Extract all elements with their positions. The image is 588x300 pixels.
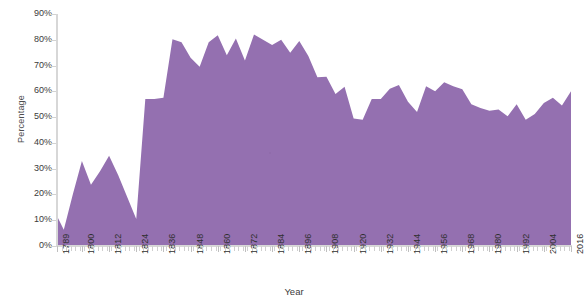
x-tick-label: 1872: [249, 234, 259, 254]
x-tick-mark-major: [462, 246, 463, 252]
x-tick-mark-major: [82, 246, 83, 252]
x-tick-label: 1836: [167, 234, 177, 254]
x-tick-label: 1812: [113, 234, 123, 254]
x-tick-mark: [401, 246, 402, 251]
x-tick-mark-major: [299, 246, 300, 252]
y-axis-line: [56, 14, 58, 246]
x-tick-mark: [197, 246, 198, 251]
x-tick-mark-major: [517, 246, 518, 252]
x-tick-mark: [320, 246, 321, 251]
x-tick-mark-major: [326, 246, 327, 252]
x-tick-label: 1920: [358, 234, 368, 254]
x-tick-mark: [306, 246, 307, 251]
y-tick-label: 30%: [6, 164, 52, 173]
y-tick-label: 0%: [6, 241, 52, 250]
x-tick-mark-major: [435, 246, 436, 252]
x-tick-mark: [356, 246, 357, 251]
x-tick-mark: [71, 246, 72, 251]
x-tick-mark-major: [136, 246, 137, 252]
y-tick-label: 20%: [6, 189, 52, 198]
x-axis-title: Year: [0, 286, 588, 297]
x-tick-mark: [528, 246, 529, 251]
x-tick-label: 1860: [222, 234, 232, 254]
x-tick-mark-major: [544, 246, 545, 252]
x-tick-mark-major: [272, 246, 273, 252]
x-tick-label: 2004: [548, 234, 558, 254]
y-tick-label: 60%: [6, 86, 52, 95]
x-tick-mark: [383, 246, 384, 251]
x-tick-mark: [483, 246, 484, 251]
x-tick-label: 1992: [521, 234, 531, 254]
x-tick-mark: [338, 246, 339, 251]
x-tick-mark: [261, 246, 262, 251]
x-tick-mark: [324, 246, 325, 251]
x-tick-mark: [89, 246, 90, 251]
x-tick-mark: [360, 246, 361, 251]
y-tick-label: 80%: [6, 35, 52, 44]
x-tick-mark: [315, 246, 316, 251]
x-tick-mark: [333, 246, 334, 251]
y-axis-ticks: 0%10%20%30%40%50%60%70%80%90%: [4, 0, 52, 300]
x-tick-mark: [265, 246, 266, 251]
x-tick-label: 1824: [140, 234, 150, 254]
x-tick-mark: [283, 246, 284, 251]
x-tick-mark: [206, 246, 207, 251]
x-tick-label: 2016: [575, 234, 585, 254]
x-tick-mark: [374, 246, 375, 251]
x-tick-mark: [188, 246, 189, 251]
y-tick-mark: [51, 40, 56, 41]
x-tick-mark: [514, 246, 515, 251]
x-tick-mark: [93, 246, 94, 251]
x-tick-mark: [533, 246, 534, 251]
x-tick-mark: [143, 246, 144, 251]
x-tick-mark: [442, 246, 443, 251]
x-tick-mark: [311, 246, 312, 251]
x-tick-mark: [193, 246, 194, 251]
x-tick-mark: [184, 246, 185, 251]
x-tick-label: 1932: [385, 234, 395, 254]
x-tick-mark: [234, 246, 235, 251]
scan-speck: [269, 152, 271, 154]
x-tick-mark-major: [245, 246, 246, 252]
series-area-path: [57, 14, 571, 246]
x-tick-mark: [297, 246, 298, 251]
x-tick-mark: [351, 246, 352, 251]
x-tick-mark: [102, 246, 103, 251]
x-tick-mark: [225, 246, 226, 251]
x-tick-mark: [460, 246, 461, 251]
x-tick-mark: [292, 246, 293, 251]
x-tick-mark: [410, 246, 411, 251]
x-tick-mark: [270, 246, 271, 251]
y-tick-mark: [51, 117, 56, 118]
x-tick-mark: [406, 246, 407, 251]
x-tick-label: 1980: [493, 234, 503, 254]
x-tick-mark: [243, 246, 244, 251]
x-tick-mark: [170, 246, 171, 251]
x-tick-mark: [211, 246, 212, 251]
x-tick-mark: [560, 246, 561, 251]
x-tick-mark-major: [218, 246, 219, 252]
x-tick-label: 1956: [439, 234, 449, 254]
x-tick-mark: [216, 246, 217, 251]
x-tick-mark: [175, 246, 176, 251]
x-tick-mark: [519, 246, 520, 251]
x-tick-mark: [229, 246, 230, 251]
x-tick-mark: [415, 246, 416, 251]
x-tick-mark: [98, 246, 99, 251]
x-tick-label: 1800: [86, 234, 96, 254]
x-tick-mark-major: [191, 246, 192, 252]
x-tick-mark: [424, 246, 425, 251]
x-tick-mark: [120, 246, 121, 251]
x-tick-mark: [66, 246, 67, 251]
x-tick-mark-major: [163, 246, 164, 252]
x-tick-mark: [148, 246, 149, 251]
x-tick-mark: [456, 246, 457, 251]
x-tick-mark: [542, 246, 543, 251]
x-tick-mark: [510, 246, 511, 251]
x-tick-mark: [166, 246, 167, 251]
x-tick-mark: [465, 246, 466, 251]
x-tick-mark: [161, 246, 162, 251]
x-tick-mark: [496, 246, 497, 251]
x-tick-mark: [139, 246, 140, 251]
x-tick-mark: [365, 246, 366, 251]
